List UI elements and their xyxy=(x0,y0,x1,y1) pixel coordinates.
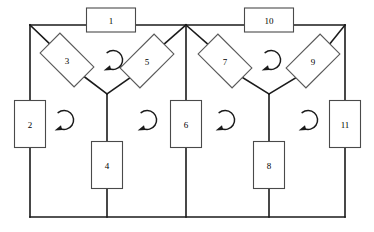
mesh-left-icon xyxy=(55,110,74,130)
wire-5-to-vertex-left xyxy=(107,77,131,94)
element-4-label: 4 xyxy=(105,161,110,171)
element-9-label: 9 xyxy=(311,57,316,67)
mesh-top-left-head xyxy=(104,65,112,70)
wire-topright-to-9 xyxy=(329,25,345,45)
element-2-label: 2 xyxy=(28,120,33,130)
wire-7-to-vertex-right xyxy=(240,76,269,94)
element-11-label: 11 xyxy=(341,120,350,130)
wire-topmid-to-5 xyxy=(163,25,186,45)
element-7-label: 7 xyxy=(223,57,228,67)
wire-topleft-to-3 xyxy=(30,25,52,46)
mesh-mid-right-icon xyxy=(216,110,235,130)
network-diagram: 1234567891011 xyxy=(0,0,374,232)
element-6-label: 6 xyxy=(184,120,189,130)
mesh-mid-left-head xyxy=(138,125,146,130)
element-3-label: 3 xyxy=(65,56,70,66)
element-8-label: 8 xyxy=(267,161,272,171)
mesh-mid-right-head xyxy=(216,125,224,130)
wire-9-to-vertex-right xyxy=(269,77,297,94)
mesh-mid-left-icon xyxy=(138,110,157,130)
mesh-right-head xyxy=(299,125,307,130)
mesh-top-right-icon xyxy=(262,50,281,70)
mesh-right-icon xyxy=(299,110,318,130)
elements-layer: 1234567891011 xyxy=(15,8,361,189)
element-10-label: 10 xyxy=(265,16,275,26)
mesh-top-right-head xyxy=(262,65,270,70)
element-1-label: 1 xyxy=(109,16,114,26)
figure-canvas: 1234567891011 xyxy=(0,0,374,232)
wire-3-to-vertex-left xyxy=(82,75,107,94)
wire-topmid-to-7 xyxy=(186,25,210,46)
mesh-top-left-icon xyxy=(104,50,123,70)
element-5-label: 5 xyxy=(145,57,150,67)
mesh-left-head xyxy=(55,125,63,130)
